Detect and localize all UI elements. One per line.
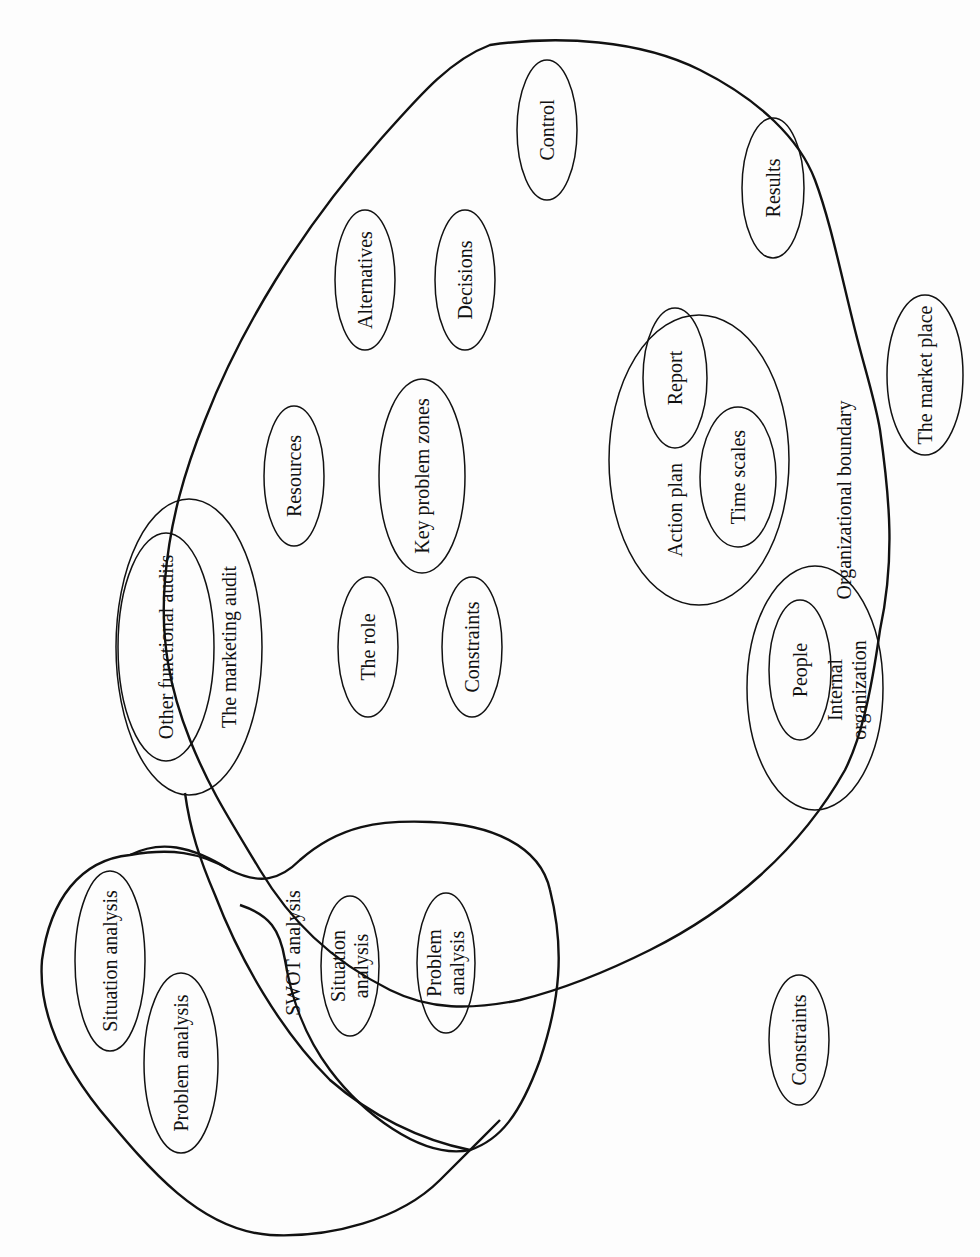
market-place-label: The market place: [914, 305, 937, 444]
marketing-audit-label: The marketing audit: [218, 565, 241, 728]
action-plan-ellipse: [609, 315, 789, 605]
situation-analysis-swot-label-line2: analysis: [350, 934, 373, 999]
problem-analysis-swot-label-line2: analysis: [446, 931, 469, 996]
key-problem-zones-label: Key problem zones: [411, 398, 434, 554]
situation-analysis-outer-label: Situation analysis: [99, 890, 122, 1032]
marketing-audit-ellipse: [116, 499, 262, 795]
report-label: Report: [664, 350, 687, 405]
decisions-label: Decisions: [454, 240, 476, 319]
other-functional-audits-label: Other functional audits: [155, 555, 177, 740]
problem-analysis-outer-label: Problem analysis: [170, 994, 193, 1131]
situation-analysis-swot-label-line1: Situation: [327, 930, 349, 1002]
swot-analysis-label: SWOT analysis: [282, 890, 305, 1016]
problem-analysis-swot-label-line1: Problem: [423, 929, 445, 997]
resources-label: Resources: [283, 435, 305, 517]
alternatives-label: Alternatives: [354, 231, 376, 329]
the-role-label: The role: [357, 613, 379, 680]
internal-organization-label-line1: Internal: [824, 658, 846, 721]
time-scales-label: Time scales: [727, 430, 749, 524]
results-label: Results: [762, 158, 784, 217]
constraints-inner-label: Constraints: [461, 601, 483, 692]
people-label: People: [789, 643, 812, 698]
internal-organization-label-line2: organization: [848, 640, 871, 740]
organizational-boundary-label: Organizational boundary: [833, 400, 856, 599]
constraints-outer-label: Constraints: [788, 994, 810, 1085]
diagram-svg: Control Results Alternatives Decisions T…: [0, 0, 980, 1257]
concept-diagram: Control Results Alternatives Decisions T…: [0, 0, 980, 1257]
action-plan-label: Action plan: [664, 463, 687, 557]
control-label: Control: [536, 99, 558, 161]
